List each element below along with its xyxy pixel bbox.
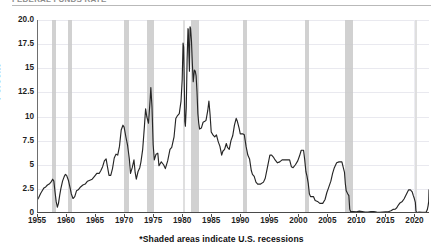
chart-container: Percent 02.557.51012.51517.520.0 1955196… — [0, 8, 443, 248]
clipped-title: FEDERAL FUNDS RATE — [12, 0, 431, 4]
y-axis-tick-label: 10 — [0, 112, 34, 120]
clipped-title-text: FEDERAL FUNDS RATE — [12, 0, 431, 4]
x-axis-tick-label: 1965 — [86, 217, 104, 225]
x-axis-tick-label: 2020 — [405, 217, 423, 225]
x-axis-tick-mark — [240, 214, 241, 217]
y-axis-tick-label: 5 — [0, 161, 34, 169]
x-axis-tick-label: 1980 — [173, 217, 191, 225]
y-axis-tick-label: 20.0 — [0, 16, 34, 24]
y-axis-tick-label: 2.5 — [0, 185, 34, 193]
x-axis-tick-label: 1995 — [260, 217, 278, 225]
x-axis-labels: 1955196019651970197519801985199019952000… — [37, 214, 429, 230]
x-axis-line — [37, 212, 429, 213]
x-axis-tick-mark — [153, 214, 154, 217]
x-axis-tick-mark — [414, 214, 415, 217]
plot-inner — [37, 20, 429, 213]
x-axis-tick-label: 1985 — [202, 217, 220, 225]
chart-footnote: *Shaded areas indicate U.S. recessions — [0, 234, 443, 244]
y-axis-labels: 02.557.51012.51517.520.0 — [0, 20, 34, 213]
header-divider — [12, 5, 431, 6]
x-axis-tick-mark — [211, 214, 212, 217]
y-axis-tick-label: 17.5 — [0, 40, 34, 48]
x-axis-tick-label: 1970 — [115, 217, 133, 225]
x-axis-tick-mark — [327, 214, 328, 217]
x-axis-tick-label: 1960 — [57, 217, 75, 225]
x-axis-tick-mark — [95, 214, 96, 217]
y-axis-tick-label: 7.5 — [0, 137, 34, 145]
x-axis-tick-mark — [385, 214, 386, 217]
fed-funds-rate-line — [37, 20, 429, 213]
x-axis-tick-label: 2010 — [347, 217, 365, 225]
x-axis-tick-mark — [66, 214, 67, 217]
x-axis-tick-label: 1955 — [28, 217, 46, 225]
x-axis-tick-mark — [298, 214, 299, 217]
plot-area — [37, 20, 429, 213]
x-axis-tick-label: 2000 — [289, 217, 307, 225]
x-axis-tick-mark — [124, 214, 125, 217]
x-axis-tick-label: 1990 — [231, 217, 249, 225]
chart-page: FEDERAL FUNDS RATE Percent 02.557.51012.… — [0, 0, 443, 248]
y-axis-line — [37, 20, 38, 213]
x-axis-tick-label: 2005 — [318, 217, 336, 225]
y-axis-tick-label: 12.5 — [0, 88, 34, 96]
x-axis-tick-mark — [269, 214, 270, 217]
x-axis-tick-label: 2015 — [376, 217, 394, 225]
x-axis-tick-mark — [356, 214, 357, 217]
x-axis-tick-mark — [37, 214, 38, 217]
x-axis-tick-mark — [182, 214, 183, 217]
y-axis-tick-label: 15 — [0, 64, 34, 72]
x-axis-tick-label: 1975 — [144, 217, 162, 225]
